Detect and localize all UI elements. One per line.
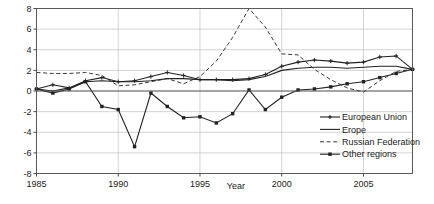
y-tick-label: 6 — [26, 24, 31, 34]
data-point — [345, 82, 348, 85]
y-tick-label: 8 — [26, 4, 31, 14]
data-point — [313, 87, 316, 90]
x-tick-label: 1995 — [190, 179, 210, 189]
legend-item-russian-federation[interactable]: Russian Federation — [320, 137, 420, 147]
chart-legend: European UnionEropeRussian FederationOth… — [320, 112, 420, 159]
chart-svg: 86420-2-4-6-8 19851990199520002005 Year … — [0, 0, 434, 204]
data-point — [280, 95, 283, 98]
data-point — [84, 80, 87, 83]
y-tick-label: 0 — [26, 86, 31, 96]
data-point — [362, 80, 365, 83]
legend-swatch-marker — [328, 153, 331, 156]
data-point — [329, 85, 332, 88]
legend-item-label: Russian Federation — [342, 137, 420, 147]
y-tick-label: -8 — [23, 169, 31, 179]
legend-item-european-union[interactable]: European Union — [320, 112, 407, 122]
data-point — [394, 72, 397, 75]
series-erope — [37, 66, 413, 91]
series-european-union — [34, 54, 414, 91]
y-tick-label: 4 — [26, 45, 31, 55]
data-point — [149, 91, 152, 94]
data-point — [198, 115, 201, 118]
series-line — [37, 66, 413, 91]
y-tick-label: 2 — [26, 66, 31, 76]
data-point — [378, 76, 381, 79]
data-point — [67, 87, 70, 90]
x-tick-label: 1990 — [108, 179, 128, 189]
legend-item-erope[interactable]: Erope — [320, 125, 366, 135]
legend-item-label: European Union — [342, 112, 407, 122]
legend-item-label: Erope — [342, 125, 366, 135]
legend-item-label: Other regions — [342, 149, 397, 159]
line-chart: 86420-2-4-6-8 19851990199520002005 Year … — [0, 0, 434, 204]
x-tick-label: 1985 — [26, 179, 46, 189]
data-point — [231, 112, 234, 115]
data-point — [182, 116, 185, 119]
y-tick-label: -6 — [23, 148, 31, 158]
data-point — [215, 121, 218, 124]
data-point — [166, 105, 169, 108]
x-axis-title: Year — [227, 181, 245, 191]
data-point — [117, 108, 120, 111]
data-point — [100, 105, 103, 108]
legend-item-other-regions[interactable]: Other regions — [320, 149, 397, 159]
x-axis-ticks: 19851990199520002005 — [26, 174, 373, 189]
data-point — [133, 145, 136, 148]
x-axis-title-label: Year — [227, 181, 245, 191]
data-point — [264, 108, 267, 111]
y-tick-label: -4 — [23, 127, 31, 137]
y-axis-ticks: 86420-2-4-6-8 — [23, 4, 36, 179]
y-tick-label: -2 — [23, 107, 31, 117]
series-line — [37, 56, 413, 89]
x-tick-label: 2000 — [272, 179, 292, 189]
data-point — [51, 91, 54, 94]
x-tick-label: 2005 — [353, 179, 373, 189]
